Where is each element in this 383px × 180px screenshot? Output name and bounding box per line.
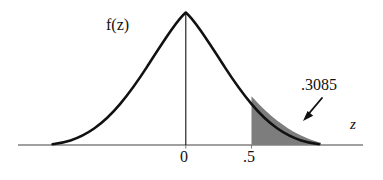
x-axis-tick-label-zero: 0 <box>180 149 188 165</box>
tail-area-value-label: .3085 <box>301 77 337 93</box>
shaded-tail-area <box>252 96 322 145</box>
x-axis-name-label: z <box>350 117 356 132</box>
x-axis-tick-label-half: .5 <box>243 149 255 165</box>
density-function-label: f(z) <box>106 17 129 33</box>
normal-distribution-figure: f(z) .3085 0 .5 z <box>0 0 383 180</box>
area-callout-arrow-icon <box>303 98 322 121</box>
